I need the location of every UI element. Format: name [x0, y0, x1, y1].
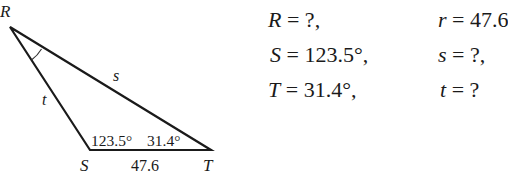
triangle-diagram: R S T s t 47.6 123.5° 31.4° [0, 0, 250, 186]
equation-T: T = 31.4°, [268, 75, 356, 105]
side-label-s: s [113, 68, 119, 84]
equation-t: t = ? [440, 75, 479, 105]
equation-r: r = 47.6 [438, 5, 508, 35]
side-label-t: t [42, 92, 46, 108]
side-label-r-value: 47.6 [131, 158, 159, 174]
vertex-label-T: T [203, 157, 212, 174]
angle-label-T: 31.4° [147, 133, 180, 149]
angle-arc-R [32, 49, 42, 60]
equation-S: S = 123.5°, [270, 40, 368, 70]
triangle-figure [0, 0, 250, 186]
vertex-label-S: S [80, 157, 89, 174]
equation-s: s = ?, [438, 40, 485, 70]
equation-R: R = ?, [268, 5, 320, 35]
vertex-label-R: R [0, 3, 10, 20]
angle-label-S: 123.5° [91, 133, 132, 149]
